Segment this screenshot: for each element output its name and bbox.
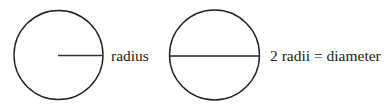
radius-label: radius bbox=[111, 48, 149, 64]
circle-with-diameter bbox=[170, 10, 260, 100]
circle-with-radius bbox=[14, 11, 103, 100]
diameter-label: 2 radii = diameter bbox=[270, 48, 381, 64]
diagram-canvas: radius 2 radii = diameter bbox=[0, 0, 392, 106]
circle-outline bbox=[170, 10, 260, 100]
